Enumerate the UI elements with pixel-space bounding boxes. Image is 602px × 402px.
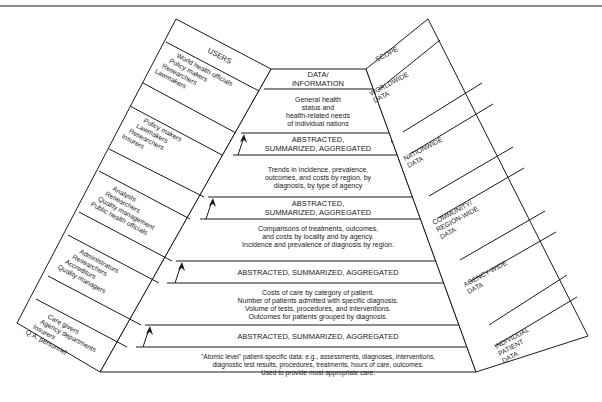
svg-text:ABSTRACTED,: ABSTRACTED, (292, 199, 345, 208)
svg-text:diagnosis, by type of agency: diagnosis, by type of agency (274, 182, 363, 190)
svg-text:Number of patients admitted wi: Number of patients admitted with specifi… (237, 297, 398, 305)
transition-band-3: ABSTRACTED, SUMMARIZED, AGGREGATED (237, 268, 399, 277)
svg-text:Costs of care by category of p: Costs of care by category of patient. (262, 289, 374, 297)
svg-text:SUMMARIZED, AGGREGATED: SUMMARIZED, AGGREGATED (265, 208, 372, 217)
svg-text:diagnostic test results, proce: diagnostic test results, procedures, tre… (212, 361, 423, 369)
svg-text:Trends in incidence, prevalenc: Trends in incidence, prevalence, (268, 166, 369, 174)
svg-text:General health: General health (295, 96, 341, 103)
info-worldwide: General health status and health-related… (286, 96, 350, 127)
svg-text:outcomes, and costs by region,: outcomes, and costs by region, by (265, 174, 372, 182)
svg-text:of individual nations: of individual nations (287, 120, 349, 127)
svg-text:status and: status and (302, 104, 334, 111)
svg-text:ABSTRACTED, SUMMARIZED, AGGREG: ABSTRACTED, SUMMARIZED, AGGREGATED (237, 332, 399, 341)
transition-band-4: ABSTRACTED, SUMMARIZED, AGGREGATED (237, 332, 399, 341)
apex-line-1: DATA/ (308, 70, 330, 79)
info-community: Comparisons of treatments, outcomes, and… (242, 225, 394, 249)
svg-text:ABSTRACTED, SUMMARIZED, AGGREG: ABSTRACTED, SUMMARIZED, AGGREGATED (237, 268, 399, 277)
pyramid-diagram: DATA/ INFORMATION General health status … (0, 0, 602, 402)
svg-text:"Atomic level" patient-specifi: "Atomic level" patient-specific data: e.… (201, 353, 435, 361)
svg-text:Used to provide most appropria: Used to provide most appropriate care. (261, 369, 375, 377)
apex-line-2: INFORMATION (292, 79, 344, 88)
svg-text:Volume of tests, procedures, a: Volume of tests, procedures, and interve… (245, 305, 391, 313)
svg-text:Outcomes for patients grouped: Outcomes for patients grouped by diagnos… (249, 313, 388, 321)
info-individual: "Atomic level" patient-specific data: e.… (201, 353, 435, 377)
svg-text:SUMMARIZED, AGGREGATED: SUMMARIZED, AGGREGATED (265, 144, 372, 153)
info-nationwide: Trends in incidence, prevalence, outcome… (265, 166, 372, 190)
svg-text:Comparisons of treatments, out: Comparisons of treatments, outcomes, (258, 225, 378, 233)
svg-text:Incidence and prevalence of di: Incidence and prevalence of diagnosis by… (242, 241, 394, 249)
svg-text:ABSTRACTED,: ABSTRACTED, (292, 135, 345, 144)
svg-text:and costs by locality and by a: and costs by locality and by agency. (262, 233, 374, 241)
svg-text:health-related needs: health-related needs (286, 112, 350, 119)
